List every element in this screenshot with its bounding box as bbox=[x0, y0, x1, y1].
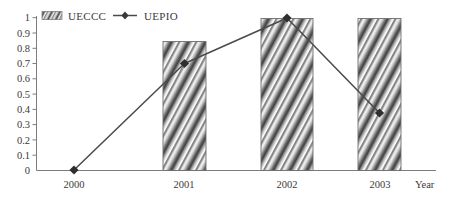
bar-2002 bbox=[261, 19, 313, 171]
y-tick-label: 1 bbox=[25, 12, 30, 23]
y-tick-label: 0.3 bbox=[17, 119, 30, 130]
legend-label-ueccc: UECCC bbox=[68, 10, 106, 22]
x-tick-label-2003: 2003 bbox=[370, 179, 391, 190]
x-tick-label-2002: 2002 bbox=[277, 179, 298, 190]
y-tick-label: 0 bbox=[25, 165, 30, 176]
y-tick-label: 0.4 bbox=[17, 104, 31, 115]
y-axis-tick-labels: 1 0.9 0.8 0.7 0.6 0.5 0.4 0.3 0.2 0.1 0 bbox=[17, 12, 31, 176]
y-axis-ticks bbox=[33, 18, 37, 156]
x-tick-label-2001: 2001 bbox=[174, 179, 195, 190]
uepio-line-path bbox=[74, 18, 380, 170]
striped-bar-swatch bbox=[42, 12, 62, 20]
line-series-uepio bbox=[69, 13, 384, 174]
y-tick-label: 0.2 bbox=[17, 135, 30, 146]
legend-label-uepio: UEPIO bbox=[144, 10, 178, 22]
y-tick-label: 0.8 bbox=[17, 43, 30, 54]
legend-item-ueccc: UECCC bbox=[42, 10, 106, 22]
y-tick-label: 0.7 bbox=[17, 58, 30, 69]
y-tick-label: 0.1 bbox=[17, 150, 30, 161]
chart-container: UECCC UEPIO bbox=[0, 0, 451, 200]
x-axis-title: Year bbox=[415, 179, 435, 190]
chart-legend: UECCC UEPIO bbox=[42, 10, 178, 22]
y-tick-label: 0.5 bbox=[17, 89, 30, 100]
legend-diamond-marker-icon bbox=[121, 12, 128, 20]
bar-2003 bbox=[358, 19, 401, 171]
bar-series-ueccc bbox=[163, 19, 401, 171]
bar-line-combo-chart: UECCC UEPIO bbox=[0, 0, 451, 200]
x-axis-tick-labels: 2000 2001 2002 2003 Year bbox=[64, 179, 435, 190]
y-tick-label: 0.9 bbox=[17, 28, 30, 39]
legend-item-uepio: UEPIO bbox=[113, 10, 178, 22]
x-tick-label-2000: 2000 bbox=[64, 179, 85, 190]
y-tick-label: 0.6 bbox=[17, 73, 30, 84]
